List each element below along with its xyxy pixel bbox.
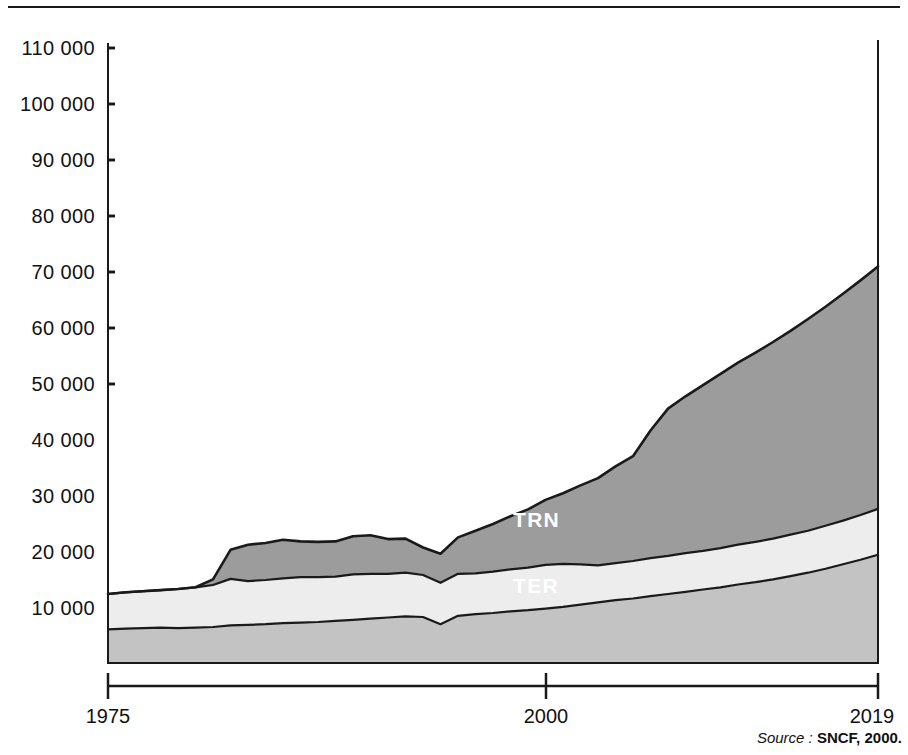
x-tick-label: 1975 <box>86 705 131 728</box>
x-axis-tick-labels: 1975 2000 2019 <box>0 0 908 755</box>
x-tick-label: 2019 <box>850 705 895 728</box>
source-prefix: Source : <box>757 729 813 746</box>
source-value: SNCF, 2000. <box>817 729 902 746</box>
chart-figure: 110 000 100 000 90 000 80 000 70 000 60 … <box>0 0 908 755</box>
x-tick-label: 2000 <box>524 705 569 728</box>
source-note: Source : SNCF, 2000. <box>757 729 902 746</box>
